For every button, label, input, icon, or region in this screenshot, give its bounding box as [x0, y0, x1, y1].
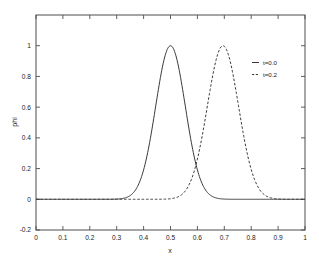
x-tick-label: 0.7 — [220, 234, 229, 241]
x-tick-label: 1 — [303, 234, 307, 241]
x-axis-title: x — [168, 246, 172, 255]
x-tick-label: 0 — [34, 234, 38, 241]
figure-canvas: 00.10.20.30.40.50.60.70.80.91 -0.200.20.… — [0, 0, 319, 260]
y-tick-label: 0.2 — [22, 165, 31, 172]
x-tick-label: 0.1 — [58, 234, 67, 241]
x-tick-label: 0.5 — [166, 234, 175, 241]
legend-label-t0: t=0.0 — [263, 59, 277, 66]
y-axis-title: phi — [10, 117, 19, 127]
x-tick-label: 0.6 — [193, 234, 202, 241]
y-tick-label: 0.4 — [22, 134, 31, 141]
y-tick-label: 0 — [27, 196, 31, 203]
line-chart: 00.10.20.30.40.50.60.70.80.91 -0.200.20.… — [0, 0, 319, 260]
plot-area-background — [36, 15, 305, 230]
legend-label-t02: t=0.2 — [263, 71, 277, 78]
x-tick-label: 0.8 — [247, 234, 256, 241]
x-tick-label: 0.3 — [112, 234, 121, 241]
y-tick-label: 1 — [27, 42, 31, 49]
y-tick-label: -0.2 — [20, 226, 32, 233]
y-tick-labels: -0.200.20.40.60.81 — [20, 42, 32, 233]
x-tick-label: 0.9 — [274, 234, 283, 241]
x-tick-label: 0.4 — [139, 234, 148, 241]
y-tick-label: 0.8 — [22, 73, 31, 80]
x-tick-label: 0.2 — [85, 234, 94, 241]
x-tick-labels: 00.10.20.30.40.50.60.70.80.91 — [34, 234, 307, 241]
y-tick-label: 0.6 — [22, 104, 31, 111]
